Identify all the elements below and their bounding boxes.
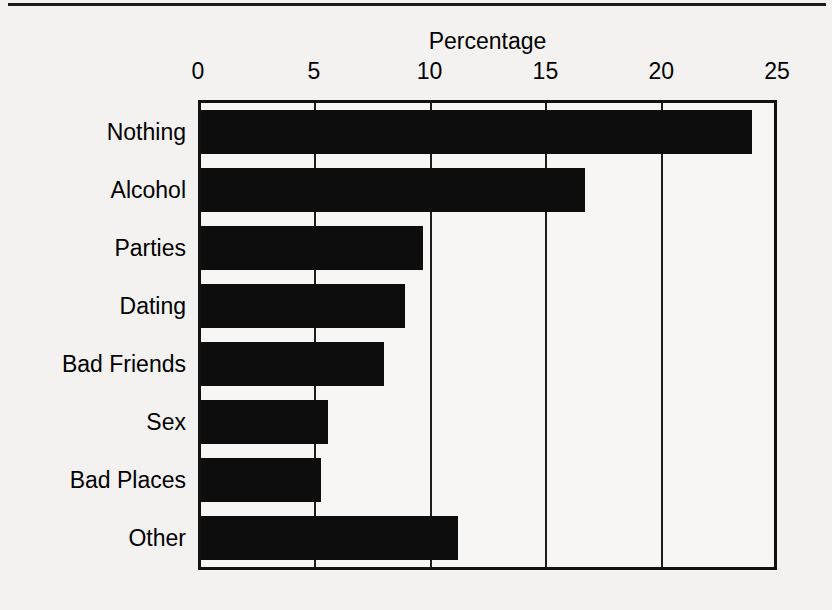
bar-bad-friends (201, 342, 384, 386)
x-tick-label-25: 25 (764, 58, 790, 84)
bar-bad-places (201, 458, 321, 502)
y-label-sex: Sex (0, 409, 186, 435)
x-tick-label-0: 0 (192, 58, 205, 84)
y-label-bad-friends: Bad Friends (0, 351, 186, 377)
x-tick-label-5: 5 (307, 58, 320, 84)
bar-alcohol (201, 168, 585, 212)
plot-inner (201, 103, 774, 567)
y-label-bad-places: Bad Places (0, 467, 186, 493)
gridline-20 (661, 103, 663, 567)
bar-nothing (201, 110, 752, 154)
bar-other (201, 516, 458, 560)
plot-area (198, 100, 777, 570)
x-tick-label-15: 15 (533, 58, 559, 84)
x-tick-label-10: 10 (417, 58, 443, 84)
chart-title: Percentage (198, 28, 777, 54)
bar-sex (201, 400, 328, 444)
y-label-alcohol: Alcohol (0, 177, 186, 203)
y-label-other: Other (0, 525, 186, 551)
top-horizontal-rule (8, 3, 826, 6)
y-label-dating: Dating (0, 293, 186, 319)
bar-dating (201, 284, 405, 328)
y-label-parties: Parties (0, 235, 186, 261)
y-label-nothing: Nothing (0, 119, 186, 145)
chart-page: Percentage 0510152025 NothingAlcoholPart… (0, 0, 832, 610)
x-tick-label-20: 20 (648, 58, 674, 84)
bar-parties (201, 226, 423, 270)
